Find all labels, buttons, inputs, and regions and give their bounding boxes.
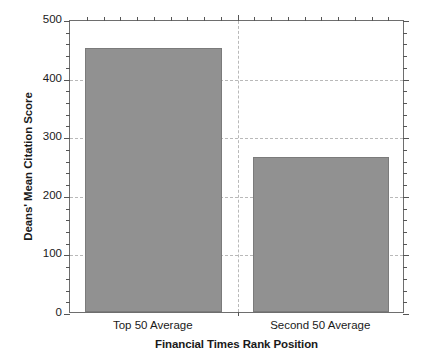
- tick-top: [388, 17, 389, 21]
- tick-top: [87, 17, 88, 21]
- tick-right: [403, 279, 407, 280]
- tick-right: [403, 138, 409, 139]
- tick-top: [154, 17, 155, 21]
- tick-left: [66, 291, 70, 292]
- tick-left: [66, 185, 70, 186]
- tick-top: [338, 17, 339, 21]
- plot-area: [69, 20, 404, 313]
- tick-right: [403, 126, 407, 127]
- gridline-vertical: [238, 21, 239, 312]
- x-axis-tick-labels: Top 50 AverageSecond 50 Average: [69, 320, 404, 338]
- y-tick-label: 400: [0, 73, 62, 85]
- tick-right: [403, 162, 407, 163]
- tick-left: [66, 91, 70, 92]
- tick-left: [66, 44, 70, 45]
- tick-right: [403, 33, 407, 34]
- y-tick-label: 100: [0, 248, 62, 260]
- tick-top: [104, 17, 105, 21]
- tick-right: [403, 267, 407, 268]
- tick-right: [403, 232, 407, 233]
- tick-top: [137, 17, 138, 21]
- tick-top: [120, 17, 121, 21]
- tick-top: [254, 17, 255, 21]
- tick-left: [64, 255, 70, 256]
- tick-left: [66, 103, 70, 104]
- tick-right: [403, 255, 409, 256]
- x-tick-label: Second 50 Average: [270, 320, 370, 332]
- bar-chart-figure: Deans' Mean Citation Score 0100200300400…: [0, 0, 426, 357]
- tick-left: [64, 80, 70, 81]
- y-tick-label: 0: [0, 307, 62, 319]
- tick-left: [66, 162, 70, 163]
- tick-left: [64, 21, 70, 22]
- tick-top: [221, 17, 222, 21]
- tick-right: [403, 197, 409, 198]
- tick-right: [403, 244, 407, 245]
- tick-top: [321, 17, 322, 21]
- tick-left: [66, 33, 70, 34]
- y-axis-tick-labels: 0100200300400500: [0, 0, 62, 357]
- tick-left: [66, 302, 70, 303]
- tick-right: [403, 150, 407, 151]
- tick-bottom: [238, 312, 239, 316]
- tick-top: [355, 17, 356, 21]
- tick-top: [305, 17, 306, 21]
- tick-right: [403, 68, 407, 69]
- y-tick-label: 200: [0, 190, 62, 202]
- tick-right: [403, 185, 407, 186]
- bar-2[interactable]: [253, 157, 390, 312]
- tick-left: [66, 279, 70, 280]
- tick-right: [403, 209, 407, 210]
- tick-top: [204, 17, 205, 21]
- tick-left: [64, 138, 70, 139]
- x-axis-title: Financial Times Rank Position: [69, 338, 404, 350]
- tick-right: [403, 44, 407, 45]
- tick-top: [372, 17, 373, 21]
- tick-right: [403, 56, 407, 57]
- tick-top: [288, 17, 289, 21]
- tick-left: [66, 173, 70, 174]
- tick-right: [403, 103, 407, 104]
- tick-right: [403, 91, 407, 92]
- tick-left: [66, 150, 70, 151]
- tick-left: [66, 244, 70, 245]
- y-tick-label: 300: [0, 131, 62, 143]
- tick-right: [403, 115, 407, 116]
- tick-right: [403, 220, 407, 221]
- tick-left: [66, 115, 70, 116]
- tick-right: [403, 80, 409, 81]
- tick-left: [66, 209, 70, 210]
- tick-left: [66, 232, 70, 233]
- tick-right: [403, 302, 407, 303]
- tick-left: [66, 56, 70, 57]
- tick-left: [66, 126, 70, 127]
- x-tick-label: Top 50 Average: [113, 320, 193, 332]
- tick-left: [66, 68, 70, 69]
- tick-left: [64, 197, 70, 198]
- tick-top: [238, 15, 239, 21]
- tick-right: [403, 314, 409, 315]
- tick-left: [64, 314, 70, 315]
- bar-1[interactable]: [85, 48, 222, 312]
- tick-top: [171, 17, 172, 21]
- tick-left: [66, 220, 70, 221]
- tick-top: [271, 17, 272, 21]
- tick-top: [187, 17, 188, 21]
- tick-right: [403, 21, 409, 22]
- tick-right: [403, 173, 407, 174]
- tick-right: [403, 291, 407, 292]
- y-tick-label: 500: [0, 14, 62, 26]
- tick-left: [66, 267, 70, 268]
